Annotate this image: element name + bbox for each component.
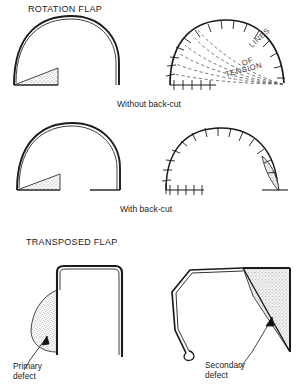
panel-transposed-flap-design — [24, 266, 122, 370]
caption-without-backcut: Without back-cut — [117, 99, 182, 109]
primary-defect-label-line2: defect — [13, 371, 36, 381]
panel-rotation-with-backcut-design — [17, 123, 120, 190]
panel-rotation-without-backcut-design — [14, 16, 119, 85]
panel-rotation-without-backcut-closed: LINES OF TENSION — [166, 20, 285, 90]
tension-label-group: LINES OF TENSION — [224, 26, 272, 79]
flap-arc-outline-2 — [17, 123, 120, 190]
secondary-defect-label-line2: defect — [205, 370, 228, 380]
secondary-defect-label-line1: Secondary — [205, 360, 246, 370]
suture-marks-arc-2 — [162, 127, 276, 181]
transposed-flap-inner — [176, 271, 243, 351]
closed-flap-arc-2 — [166, 128, 278, 190]
primary-defect-stipple — [14, 68, 58, 85]
surgical-flap-figure: ROTATION FLAP — [0, 0, 299, 389]
flap-outline-rect — [57, 266, 122, 357]
panel-transposed-flap-transposed — [172, 268, 290, 368]
flap-inner-line — [16, 19, 116, 85]
flap-inner-rect — [60, 269, 119, 355]
rotation-flap-title: ROTATION FLAP — [28, 4, 102, 14]
flap-arc-outline — [14, 16, 119, 85]
transposed-flap-outline — [172, 268, 243, 353]
transposed-flap-title: TRANSPOSED FLAP — [26, 237, 118, 247]
primary-defect-stipple-2 — [17, 174, 60, 190]
flap-inner-line-2 — [19, 126, 117, 190]
panel-rotation-with-backcut-closed — [162, 127, 288, 195]
primary-defect-label-line1: Primary — [13, 361, 43, 371]
caption-with-backcut: With back-cut — [120, 204, 173, 214]
